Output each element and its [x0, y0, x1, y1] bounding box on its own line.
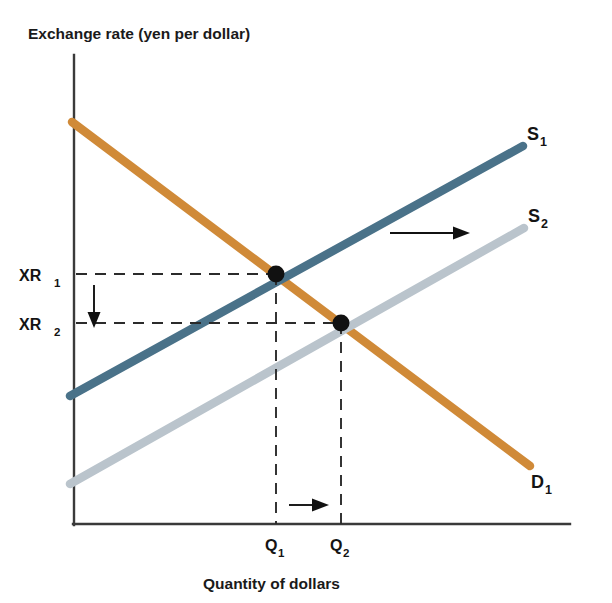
y-tick-xr1-subscript: 1 — [54, 277, 61, 289]
chart-figure: Exchange rate (yen per dollar) — [0, 0, 612, 603]
curve-label-d1-subscript: 1 — [545, 483, 552, 497]
curve-label-s2-subscript: 2 — [541, 217, 548, 231]
curve-label-s2-text: S — [528, 206, 540, 226]
equilibrium-point-1 — [268, 266, 285, 283]
x-tick-q1-subscript: 1 — [278, 547, 285, 559]
demand-curve-d1 — [72, 122, 530, 466]
y-axis-title: Exchange rate (yen per dollar) — [28, 25, 250, 42]
curve-label-s1-text: S — [527, 124, 539, 144]
x-tick-q1: Q 1 — [265, 537, 285, 559]
curve-label-d1: D 1 — [531, 472, 552, 497]
curve-label-s1-subscript: 1 — [540, 135, 547, 149]
x-tick-q2-subscript: 2 — [343, 547, 349, 559]
supply-shift-arrow-icon — [390, 227, 470, 240]
x-tick-q1-text: Q — [265, 537, 277, 554]
supply-demand-diagram: Exchange rate (yen per dollar) — [0, 0, 612, 603]
y-tick-xr2: XR 2 — [19, 316, 60, 338]
y-tick-xr2-text: XR — [19, 316, 42, 333]
quantity-rise-arrow-icon — [289, 499, 329, 512]
exchange-rate-fall-arrow-icon — [88, 285, 101, 328]
curve-label-d1-text: D — [531, 472, 544, 492]
y-tick-xr2-subscript: 2 — [54, 326, 60, 338]
x-tick-q2: Q 2 — [330, 537, 349, 559]
x-tick-q2-text: Q — [330, 537, 342, 554]
y-tick-xr1-text: XR — [19, 267, 42, 284]
curve-label-s2: S 2 — [528, 206, 548, 231]
equilibrium-point-2 — [333, 315, 350, 332]
curve-label-s1: S 1 — [527, 124, 547, 149]
y-tick-xr1: XR 1 — [19, 267, 61, 289]
x-axis-title: Quantity of dollars — [203, 575, 340, 592]
